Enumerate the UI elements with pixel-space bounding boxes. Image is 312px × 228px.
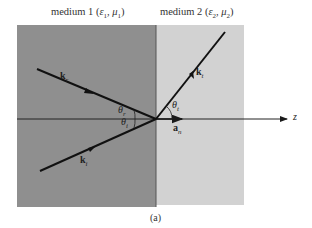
medium-2-region: [156, 25, 244, 205]
figure-caption: (a): [150, 212, 161, 223]
medium-2-label: medium 2 (ε2, μ2): [160, 6, 234, 20]
label-a-n: an: [173, 122, 182, 136]
label-k-i: ki: [80, 154, 88, 168]
z-axis-label: z: [293, 111, 297, 122]
label-k-r: kr: [60, 70, 68, 84]
wave-reflection-diagram: [0, 0, 312, 228]
label-k-t: kt: [196, 66, 204, 80]
label-theta-t: θt: [172, 99, 179, 113]
label-theta-i: θi: [121, 116, 128, 130]
medium-1-label: medium 1 (ε1, μ1): [51, 6, 125, 20]
